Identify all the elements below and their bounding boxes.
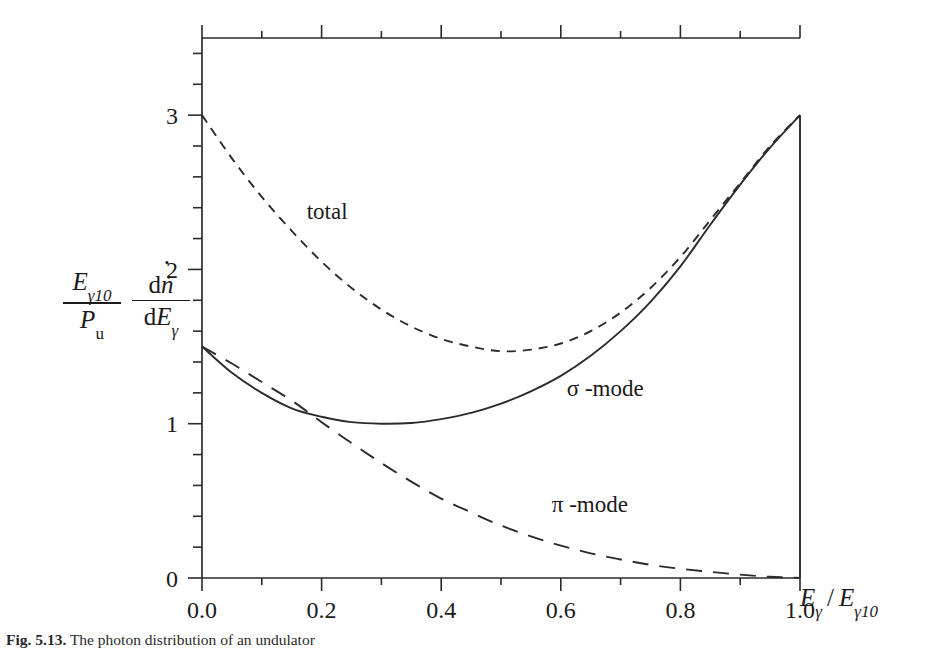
curves-group xyxy=(202,115,800,578)
curve-sigma-mode xyxy=(202,115,800,424)
fraction-bar xyxy=(132,300,190,302)
curve-annotations-group: totalσ -modeπ -mode xyxy=(307,199,644,517)
x-tick-label: 0.4 xyxy=(426,597,456,623)
annotation-sigma-mode: σ -mode xyxy=(567,376,644,401)
y-label-denominator-1: Pu xyxy=(77,306,107,338)
curve-pi-mode xyxy=(202,347,800,578)
figure-caption: Fig. 5.13. The photon distribution of an… xyxy=(6,631,926,649)
y-axis-label-fraction-1: Eγ10 Pu xyxy=(63,268,121,338)
y-tick-label: 1 xyxy=(166,411,178,437)
x-axis-label: Eγ / Eγ10 xyxy=(800,584,878,617)
y-axis-label-fraction-2: dṅ dEγ xyxy=(132,271,190,336)
axes-group xyxy=(188,25,800,591)
y-label-numerator-1: Eγ10 xyxy=(70,268,115,300)
curve-total xyxy=(202,115,800,351)
y-axis-label: Eγ10 Pu dṅ dEγ xyxy=(18,268,190,338)
y-tick-label: 3 xyxy=(166,103,178,129)
x-tick-label: 0.2 xyxy=(307,597,337,623)
caption-text: The photon distribution of an undulator xyxy=(70,631,315,648)
caption-number: Fig. 5.13. xyxy=(6,631,66,648)
annotation-pi-mode: π -mode xyxy=(552,492,628,517)
annotation-total: total xyxy=(307,199,348,224)
y-tick-label: 0 xyxy=(166,566,178,592)
x-tick-label: 0.6 xyxy=(546,597,576,623)
x-tick-label: 0.8 xyxy=(665,597,695,623)
y-label-numerator-2: dṅ xyxy=(146,271,177,298)
figure-container: 0.00.20.40.60.81.00123 totalσ -modeπ -mo… xyxy=(0,0,928,649)
y-label-denominator-2: dEγ xyxy=(141,303,181,335)
x-tick-label: 0.0 xyxy=(187,597,217,623)
tick-labels-group: 0.00.20.40.60.81.00123 xyxy=(166,103,815,623)
